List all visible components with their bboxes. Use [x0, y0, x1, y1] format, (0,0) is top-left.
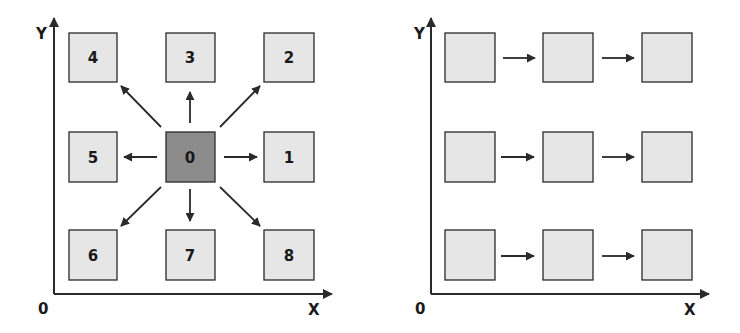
box-3-label: 3 [185, 49, 195, 67]
box-5: 5 [69, 132, 117, 182]
box-4: 4 [69, 33, 117, 82]
box-2: 2 [264, 33, 314, 82]
grid-box-r1-c2 [543, 33, 593, 82]
left-y-axis-label: Y [35, 25, 48, 43]
grid-box-r2-c2 [543, 132, 593, 182]
grid-box-r1-c1 [445, 33, 495, 82]
box-3: 3 [166, 33, 215, 82]
arrow-up-left-icon [121, 86, 161, 127]
box-2-label: 2 [284, 49, 294, 67]
left-origin-label: 0 [38, 300, 48, 318]
arrow-down-right-icon [220, 187, 260, 226]
grid-box-r2-c3 [642, 132, 692, 182]
box-0-center: 0 [166, 132, 215, 182]
left-x-axis-label: X [308, 301, 320, 319]
box-1: 1 [264, 132, 314, 182]
box-7-label: 7 [185, 247, 195, 265]
left-panel: Y X 0 4 3 2 5 0 1 6 [35, 18, 332, 319]
grid-box-r3-c1 [445, 230, 495, 280]
box-8: 8 [264, 230, 314, 280]
box-0-label: 0 [185, 149, 195, 167]
grid-box-r1-c3 [642, 33, 692, 82]
grid-box-r2-c1 [445, 132, 495, 182]
right-x-axis-label: X [684, 301, 696, 319]
box-7: 7 [166, 230, 215, 280]
right-panel: Y X 0 [413, 18, 709, 319]
box-4-label: 4 [88, 49, 98, 67]
right-y-axis-label: Y [413, 25, 426, 43]
box-8-label: 8 [284, 247, 294, 265]
right-origin-label: 0 [415, 300, 425, 318]
box-6-label: 6 [88, 247, 98, 265]
box-1-label: 1 [284, 149, 294, 167]
box-6: 6 [69, 230, 117, 280]
diagram-canvas: Y X 0 4 3 2 5 0 1 6 [0, 0, 740, 333]
grid-box-r3-c3 [642, 230, 692, 280]
arrow-up-right-icon [220, 86, 260, 127]
arrow-down-left-icon [121, 187, 161, 226]
grid-box-r3-c2 [543, 230, 593, 280]
box-5-label: 5 [88, 149, 98, 167]
